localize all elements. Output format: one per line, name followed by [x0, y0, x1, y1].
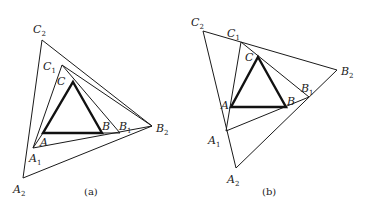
label-c2-b: C2: [191, 16, 204, 31]
figure-a: C2 C1 C A A1 A2 B B1 B2 (a): [12, 23, 169, 198]
label-c1-a: C1: [43, 60, 56, 75]
line-c1-b2-a: [62, 65, 152, 126]
label-a2-b: A2: [226, 173, 239, 188]
label-b2-b: B2: [340, 65, 354, 80]
label-a2-a: A2: [12, 183, 25, 198]
label-b2-a: B2: [155, 122, 169, 137]
label-c-a: C: [57, 75, 66, 88]
line-a1-b2-a: [33, 126, 152, 148]
inner-triangle-b: [231, 57, 286, 107]
label-b-b: B: [286, 95, 295, 108]
figure-b: C2 C1 C A A1 A2 B B1 B2 (b): [191, 16, 354, 197]
caption-a: (a): [84, 186, 98, 197]
label-b-a: B: [101, 120, 110, 133]
middle-triangle-b: [226, 42, 309, 131]
figure-canvas: C2 C1 C A A1 A2 B B1 B2 (a) C2 C1 C A A1…: [0, 0, 371, 214]
label-c2-a: C2: [33, 23, 46, 38]
label-b1-a: B1: [118, 120, 132, 135]
caption-b: (b): [262, 186, 276, 197]
label-a1-b: A1: [207, 134, 220, 149]
label-a-b: A: [220, 99, 229, 112]
label-a-a: A: [39, 136, 48, 149]
label-c1-b: C1: [227, 27, 240, 42]
label-a1-a: A1: [28, 152, 41, 167]
inner-triangle-a: [43, 82, 102, 133]
label-b1-b: B1: [300, 82, 314, 97]
label-c-b: C: [245, 51, 254, 64]
